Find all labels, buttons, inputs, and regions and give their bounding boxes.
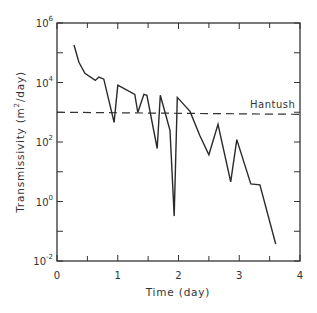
hantush-label: Hantush bbox=[250, 99, 295, 110]
y-axis-title: Transmissivity (m2/day) bbox=[13, 71, 26, 214]
y-tick-label: 104 bbox=[36, 75, 54, 89]
y-axis-ticks: 10-2100102104106 bbox=[33, 15, 300, 267]
x-tick-label: 0 bbox=[54, 270, 60, 281]
plot-frame bbox=[57, 23, 300, 261]
y-tick-label: 100 bbox=[36, 194, 53, 208]
hantush-reference-line: Hantush bbox=[57, 99, 300, 114]
x-tick-label: 3 bbox=[236, 270, 242, 281]
y-tick-label: 106 bbox=[36, 15, 54, 29]
x-axis-title: Time (day) bbox=[145, 286, 211, 298]
y-tick-label: 102 bbox=[36, 134, 53, 148]
transmissivity-series bbox=[74, 45, 276, 244]
x-tick-label: 2 bbox=[175, 270, 181, 281]
x-tick-label: 4 bbox=[297, 270, 303, 281]
x-tick-label: 1 bbox=[115, 270, 121, 281]
transmissivity-chart: 10-2100102104106 01234 Hantush Time (day… bbox=[0, 0, 317, 313]
y-tick-label: 10-2 bbox=[33, 253, 53, 267]
x-axis-ticks: 01234 bbox=[54, 23, 303, 281]
